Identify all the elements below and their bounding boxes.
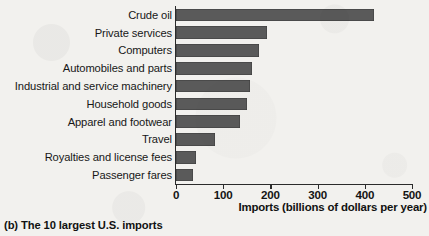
bar-row: Computers	[0, 42, 429, 60]
x-axis-title: Imports (billions of dollars per year)	[0, 201, 427, 213]
category-label: Travel	[142, 133, 172, 145]
bar	[176, 151, 196, 164]
bar-row: Household goods	[0, 95, 429, 113]
x-tick-label: 200	[261, 188, 280, 201]
bar-track	[176, 115, 240, 128]
category-label: Computers	[118, 44, 172, 56]
plot-area: Crude oilPrivate servicesComputersAutomo…	[0, 6, 429, 184]
bar-track	[176, 26, 267, 39]
bar-row: Royalties and license fees	[0, 148, 429, 166]
bar	[176, 44, 259, 57]
bar	[176, 133, 215, 146]
category-label: Apparel and footwear	[68, 116, 172, 128]
bar	[176, 9, 374, 22]
bar-track	[176, 133, 215, 146]
bar	[176, 169, 193, 182]
bar-track	[176, 62, 252, 75]
bar-track	[176, 9, 374, 22]
x-tick-label: 100	[214, 188, 233, 201]
category-label: Industrial and service machinery	[15, 80, 172, 92]
category-label: Passenger fares	[92, 169, 172, 181]
bar-chart-figure: Crude oilPrivate servicesComputersAutomo…	[0, 0, 429, 236]
category-label: Crude oil	[128, 9, 172, 21]
bar-rows: Crude oilPrivate servicesComputersAutomo…	[0, 6, 429, 184]
y-axis-line	[175, 6, 176, 184]
bar-row: Travel	[0, 131, 429, 149]
category-label: Household goods	[86, 98, 172, 110]
category-label: Private services	[95, 27, 172, 39]
bar	[176, 26, 267, 39]
bar-row: Crude oil	[0, 6, 429, 24]
bar	[176, 80, 250, 93]
x-tick-label: 500	[403, 188, 422, 201]
bar-track	[176, 80, 250, 93]
category-label: Royalties and license fees	[45, 151, 172, 163]
category-label: Automobiles and parts	[63, 62, 172, 74]
bar	[176, 115, 240, 128]
bar-row: Private services	[0, 24, 429, 42]
bar-track	[176, 98, 247, 111]
bar-row: Industrial and service machinery	[0, 77, 429, 95]
bar-track	[176, 151, 196, 164]
x-tick-label: 300	[308, 188, 327, 201]
bar-track	[176, 169, 193, 182]
bar	[176, 98, 247, 111]
bar-row: Passenger fares	[0, 166, 429, 184]
x-tick-label: 400	[355, 188, 374, 201]
bar	[176, 62, 252, 75]
bar-track	[176, 44, 259, 57]
bar-row: Apparel and footwear	[0, 113, 429, 131]
bar-row: Automobiles and parts	[0, 59, 429, 77]
x-tick-label: 0	[173, 188, 179, 201]
figure-caption: (b) The 10 largest U.S. imports	[4, 219, 163, 231]
x-axis-line	[175, 184, 413, 185]
